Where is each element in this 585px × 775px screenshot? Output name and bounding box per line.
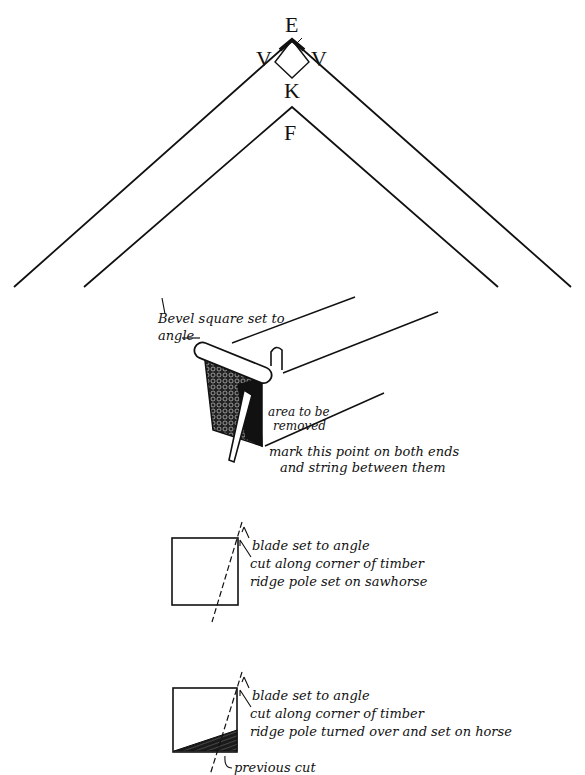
- label-V-left: V: [256, 46, 272, 71]
- previous-cut-arrow: [225, 756, 232, 768]
- cut-arrow-1: [240, 540, 251, 557]
- label-E: E: [285, 12, 298, 37]
- cut-arrow-2: [240, 690, 251, 707]
- cut1-line1: blade set to angle: [252, 538, 370, 553]
- bevel-label-line2: angle: [158, 328, 195, 343]
- timber-top-edge-2: [283, 312, 438, 373]
- cut2-line3: ridge pole turned over and set on horse: [250, 724, 512, 739]
- ridge-diamond: [275, 40, 309, 78]
- area-label-line2: removed: [273, 419, 326, 433]
- label-F: F: [284, 120, 296, 145]
- cut-diagram-1: [172, 522, 251, 622]
- mark-label-line2: and string between them: [280, 460, 446, 475]
- cut2-line4: previous cut: [234, 760, 316, 775]
- cut1-line3: ridge pole set on sawhorse: [250, 574, 428, 589]
- cut1-line2: cut along corner of timber: [250, 556, 425, 571]
- cut2-line1: blade set to angle: [252, 688, 370, 703]
- ridge-pole-diagram: E V V K F Bevel square set to angle area…: [0, 0, 585, 775]
- blade-arrow-1: [242, 527, 249, 538]
- mark-label-line1: mark this point on both ends: [269, 444, 459, 459]
- ridge-peak-thick: [280, 40, 304, 50]
- label-V-right: V: [311, 46, 327, 71]
- area-label-line1: area to be: [268, 405, 330, 419]
- timber-section-1: [172, 538, 238, 605]
- previous-cut-shading: [174, 730, 237, 751]
- roof-outline: [14, 38, 571, 287]
- e-leader-line: [296, 38, 302, 44]
- bevel-square-wingnut: [271, 347, 282, 370]
- label-K: K: [284, 78, 300, 103]
- cut2-line2: cut along corner of timber: [250, 706, 425, 721]
- blade-arrow-2: [242, 677, 249, 688]
- bevel-label-line1: Bevel square set to: [157, 311, 285, 326]
